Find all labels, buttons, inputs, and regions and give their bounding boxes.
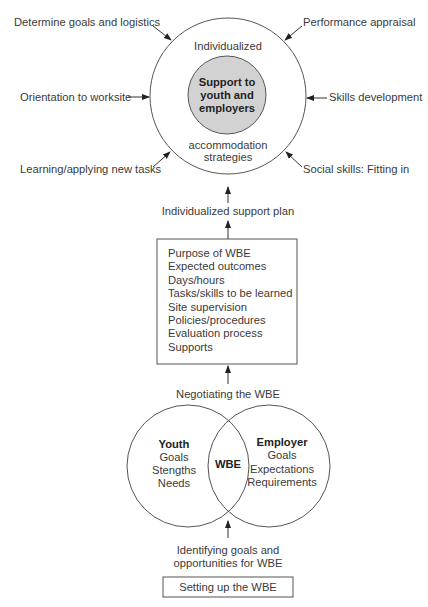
wbe-item: Evaluation process [168, 327, 292, 340]
center-label-line-3: employers [199, 102, 255, 115]
arrow-top-right [285, 26, 302, 40]
arrow-bottom-right [286, 152, 302, 167]
wbe-item: Supports [168, 341, 292, 354]
venn-employer-title: Employer [257, 436, 308, 449]
center-label-line-2: youth and [200, 89, 253, 102]
wbe-details-list: Purpose of WBE Expected outcomes Days/ho… [168, 247, 292, 354]
venn-youth-item: Needs [158, 477, 190, 490]
identifying-label-line-2: opportunities for WBE [174, 557, 283, 570]
venn-youth-title: Youth [159, 438, 190, 451]
negotiating-label: Negotiating the WBE [176, 388, 280, 401]
venn-employer-item: Goals [267, 449, 296, 462]
wbe-item: Days/hours [168, 274, 292, 287]
ring-top-label: Individualized [194, 40, 262, 53]
ring-bottom-label-line-2: strategies [204, 151, 253, 164]
input-learning-tasks: Learning/applying new tasks [20, 163, 161, 176]
venn-youth-item: Goals [159, 451, 188, 464]
venn-overlap-label: WBE [215, 458, 241, 471]
wbe-item: Expected outcomes [168, 260, 292, 273]
center-label-line-1: Support to [199, 76, 256, 89]
support-plan-label: Individualized support plan [162, 205, 294, 218]
venn-employer-item: Expectations [250, 463, 314, 476]
wbe-item: Policies/procedures [168, 314, 292, 327]
wbe-item: Tasks/skills to be learned [168, 287, 292, 300]
wbe-item: Purpose of WBE [168, 247, 292, 260]
input-orientation: Orientation to worksite [20, 91, 131, 104]
input-skills-development: Skills development [329, 91, 422, 104]
identifying-label-line-1: Identifying goals and [177, 544, 280, 557]
venn-employer-item: Requirements [247, 476, 317, 489]
input-performance-appraisal: Performance appraisal [303, 16, 416, 29]
input-determine-goals: Determine goals and logistics [14, 16, 160, 29]
input-social-skills: Social skills: Fitting in [303, 163, 409, 176]
venn-youth-item: Stengths [152, 464, 196, 477]
setting-up-label: Setting up the WBE [179, 581, 277, 594]
wbe-item: Site supervision [168, 301, 292, 314]
